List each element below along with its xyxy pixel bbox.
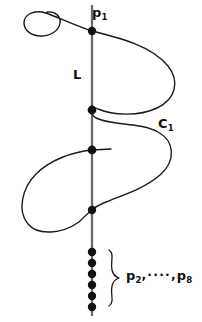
label-line-L: L (73, 68, 81, 81)
brace (109, 250, 119, 306)
point-p2 (88, 106, 97, 115)
point-p1 (88, 27, 96, 35)
curve-c1 (22, 12, 175, 232)
label-p1: p1 (92, 6, 107, 19)
point-p7 (88, 270, 96, 278)
point-p4 (88, 206, 96, 214)
label-separator: ,····, (141, 268, 176, 282)
point-p6 (88, 259, 96, 267)
label-point-range: p2,····,p8 (126, 269, 192, 282)
point-p8 (88, 281, 96, 289)
point-p5 (88, 248, 96, 256)
point-p10 (88, 303, 96, 311)
math-figure: p1 L C1 p2,····,p8 (0, 0, 202, 322)
point-p9 (88, 292, 96, 300)
label-curve-c1: C1 (158, 117, 174, 130)
point-p3 (88, 146, 97, 155)
